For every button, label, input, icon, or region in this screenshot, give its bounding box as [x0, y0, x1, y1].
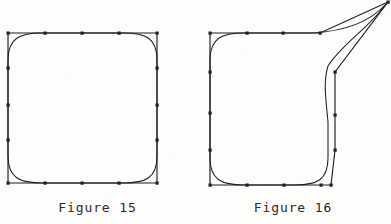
control-point-marker — [7, 32, 10, 35]
control-point-marker — [320, 184, 323, 187]
control-point-marker — [246, 184, 249, 187]
figure-15-caption: Figure 15 — [0, 200, 195, 215]
control-point-marker — [282, 32, 285, 35]
control-point-marker — [330, 184, 333, 187]
bspline-curve — [210, 4, 386, 185]
scanned-figure-page: Figure 15 — [0, 0, 391, 224]
control-point-marker — [44, 32, 47, 35]
control-point-marker — [156, 104, 159, 107]
control-point-marker — [44, 182, 47, 185]
control-polygon — [8, 33, 157, 183]
control-point-marker — [334, 71, 337, 74]
control-point-marker — [209, 184, 212, 187]
control-point-marker — [334, 114, 337, 117]
control-point-marker — [156, 32, 159, 35]
control-point-marker — [334, 149, 337, 152]
control-point-marker-displaced — [387, 1, 390, 4]
control-point-marker — [7, 104, 10, 107]
bspline-curve — [8, 33, 157, 183]
control-point-marker — [209, 71, 212, 74]
control-point-marker — [209, 149, 212, 152]
figure-15-drawing — [0, 0, 195, 200]
control-point-markers — [7, 32, 159, 185]
control-point-marker — [209, 112, 212, 115]
control-point-marker — [7, 139, 10, 142]
control-point-marker — [156, 182, 159, 185]
control-point-marker — [118, 32, 121, 35]
control-point-marker — [246, 32, 249, 35]
figure-16-caption: Figure 16 — [195, 200, 391, 215]
figure-16-block: Figure 16 — [195, 0, 391, 224]
control-point-markers — [209, 1, 390, 187]
control-point-marker — [7, 182, 10, 185]
control-point-marker — [81, 32, 84, 35]
control-point-marker — [156, 67, 159, 70]
control-point-marker — [283, 184, 286, 187]
control-point-marker — [118, 182, 121, 185]
control-point-marker — [319, 32, 322, 35]
control-point-marker — [209, 32, 212, 35]
control-point-marker — [81, 182, 84, 185]
control-point-marker — [7, 67, 10, 70]
control-point-marker — [156, 139, 159, 142]
figure-16-drawing — [195, 0, 391, 200]
figure-15-block: Figure 15 — [0, 0, 195, 224]
control-polygon — [210, 2, 388, 185]
